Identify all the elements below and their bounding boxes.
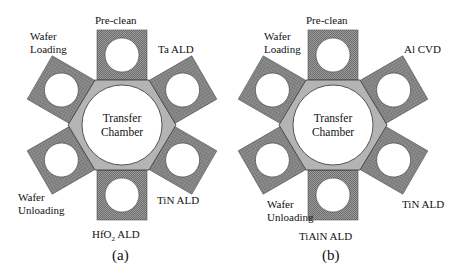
label-b-upper-left: Wafer Loading [264, 30, 301, 56]
label-a-lower-right: TiN ALD [157, 194, 199, 207]
label-part: ALD [115, 228, 140, 240]
label-a-bottom: HfO2 ALD [92, 228, 140, 246]
label-line: Wafer [30, 30, 67, 43]
label-line: Chamber [293, 125, 373, 139]
label-a-center: Transfer Chamber [82, 111, 162, 139]
chamber-bottom [308, 170, 358, 220]
chamber-top-preclean [97, 30, 147, 80]
label-line: Transfer [293, 111, 373, 125]
label-a-top: Pre-clean [95, 14, 137, 27]
label-b-lower-right: TiN ALD [402, 198, 444, 211]
label-a-upper-left: Wafer Loading [30, 30, 67, 56]
label-line: Loading [264, 43, 301, 56]
label-line: Wafer [267, 198, 313, 211]
label-a-lower-left: Wafer Unloading [18, 191, 64, 217]
caption-a: (a) [112, 247, 129, 264]
chamber-top-preclean [308, 30, 358, 80]
label-line: Unloading [267, 211, 313, 224]
label-b-bottom: TiAlN ALD [299, 230, 352, 243]
chamber-bottom [97, 170, 147, 220]
label-line: Unloading [18, 204, 64, 217]
label-line: Wafer [18, 191, 64, 204]
label-line: Wafer [264, 30, 301, 43]
label-b-top: Pre-clean [306, 14, 348, 27]
label-line: Loading [30, 43, 67, 56]
cluster-tool-diagrams [0, 0, 471, 278]
label-part: HfO [92, 228, 112, 240]
label-line: Chamber [82, 125, 162, 139]
label-a-upper-right: Ta ALD [158, 43, 194, 56]
label-b-center: Transfer Chamber [293, 111, 373, 139]
label-b-lower-left: Wafer Unloading [267, 198, 313, 224]
label-line: Transfer [82, 111, 162, 125]
label-b-upper-right: Al CVD [404, 43, 441, 56]
caption-b: (b) [322, 247, 340, 264]
